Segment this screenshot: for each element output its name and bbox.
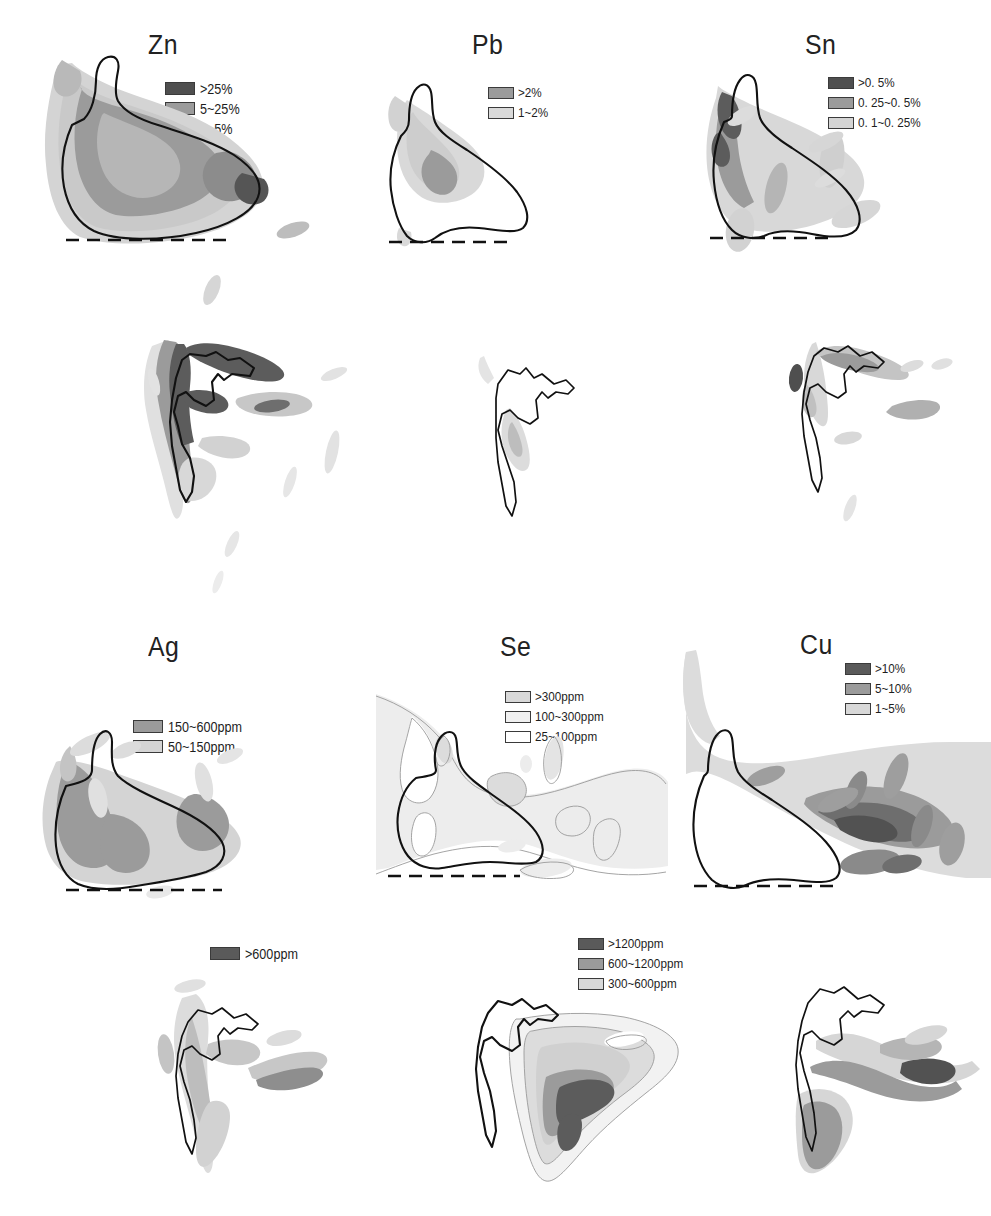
cu-upper-fills [683, 650, 991, 878]
zn-outlier-blob [275, 218, 312, 242]
pb-upper-fills [388, 96, 484, 246]
map-ag-upper [20, 700, 330, 900]
zn-l-band-dark [186, 343, 284, 381]
cu-lower-fills [796, 1021, 980, 1173]
sn-l-outlier [841, 493, 860, 523]
pb-l-wisp [478, 356, 494, 384]
legend-label: 600~1200ppm [608, 956, 683, 971]
zn-l-band-light [178, 458, 216, 501]
sn-l-outlier [833, 430, 863, 447]
zn-l-outlier [222, 529, 243, 559]
legend-label: >1200ppm [608, 936, 664, 951]
map-se-upper [360, 690, 670, 890]
map-se-lower [440, 985, 710, 1215]
ag-l-outlier [155, 1033, 176, 1075]
legend-label: >600ppm [245, 946, 298, 962]
zn-l-outlier [322, 429, 343, 475]
map-sn-lower [760, 330, 990, 560]
map-cu-lower [750, 975, 991, 1210]
se-upper-fills [376, 694, 668, 881]
zn-lower-fills [144, 340, 349, 595]
map-pb-upper [355, 80, 655, 280]
map-pb-lower [450, 340, 690, 570]
legend-ag-lower: >600ppm [210, 945, 304, 965]
map-ag-lower [130, 980, 380, 1210]
legend-item: >1200ppm [578, 935, 692, 952]
panel-title-ag: Ag [148, 632, 179, 663]
ag-l-outlier [265, 1027, 303, 1049]
sn-l-band-mid [886, 400, 940, 420]
zn-upper-fills [45, 60, 311, 307]
legend-swatch-icon [210, 947, 240, 960]
ag-lower-fills [155, 977, 327, 1173]
ag-outlier [215, 745, 245, 767]
zn-l-outlier [319, 364, 349, 384]
sn-lower-fills [788, 342, 954, 523]
se-lower-fills [509, 1013, 678, 1181]
ag-l-outlier [173, 977, 207, 995]
zn-l-band-light [198, 436, 250, 458]
ag-l-band-light [206, 1040, 260, 1066]
zn-l-outlier [280, 465, 299, 499]
legend-item: >600ppm [210, 945, 304, 962]
zn-outlier-blob [200, 273, 225, 308]
pb-band-top [388, 96, 409, 132]
sn-l-outlier [930, 356, 954, 372]
legend-swatch-icon [578, 958, 604, 970]
se-blob [520, 755, 532, 773]
ag-upper-fills [43, 727, 246, 901]
panel-title-pb: Pb [472, 30, 503, 61]
legend-swatch-icon [578, 938, 604, 950]
zn-l-outlier [210, 569, 226, 594]
ag-outlier [145, 883, 175, 901]
panel-title-sn: Sn [805, 30, 836, 61]
cu-l-band-mid [802, 1102, 842, 1170]
map-sn-upper [680, 62, 980, 272]
sn-l-blob-dark [788, 363, 805, 392]
map-zn-upper [20, 55, 330, 270]
map-cu-upper [660, 648, 991, 893]
ag-outlier [109, 738, 144, 763]
panel-title-se: Se [500, 632, 531, 663]
legend-item: 600~1200ppm [578, 955, 692, 972]
map-zn-lower [120, 330, 390, 610]
